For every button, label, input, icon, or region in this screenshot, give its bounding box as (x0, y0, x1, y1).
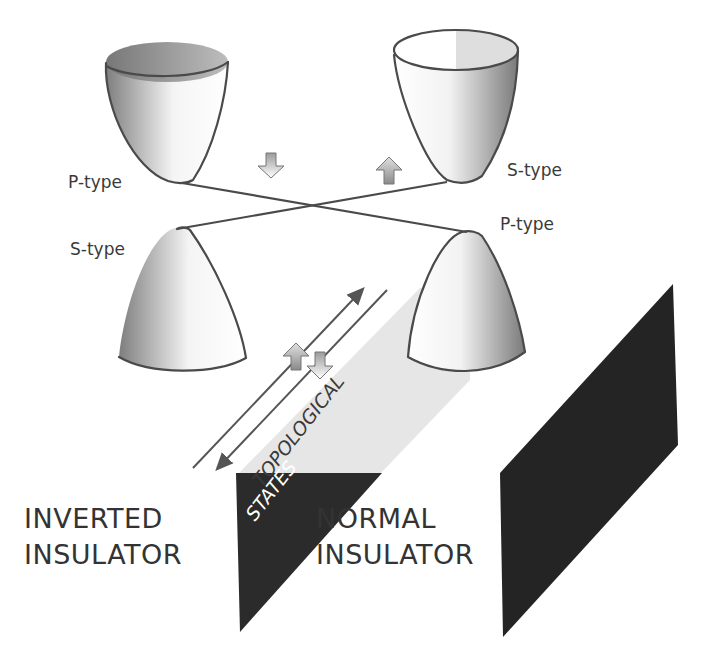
label-normal: NORMAL (316, 503, 436, 534)
label-inverted-insulator: INSULATOR (24, 539, 182, 570)
cone-top-right (394, 30, 518, 183)
label-inverted: INVERTED (24, 503, 163, 534)
label-normal-insulator: INSULATOR (316, 539, 474, 570)
label-p-type-bottom-right: P-type (500, 214, 554, 234)
spin-down-arrow-top (258, 153, 284, 178)
normal-insulator-block (500, 284, 678, 637)
band-line-p-to-p (182, 183, 467, 232)
cone-top-left (106, 42, 228, 183)
label-s-type-bottom-left: S-type (70, 239, 125, 259)
cone-bottom-right (408, 231, 525, 371)
spin-up-arrow-top (376, 157, 402, 184)
topological-insulator-diagram: P-type S-type S-type P-type TOPOLOGICAL … (0, 0, 706, 671)
cone-bottom-left (119, 227, 246, 370)
label-s-type-top-right: S-type (507, 160, 562, 180)
spin-up-arrow-surface (283, 343, 309, 370)
label-p-type-top-left: P-type (68, 172, 122, 192)
